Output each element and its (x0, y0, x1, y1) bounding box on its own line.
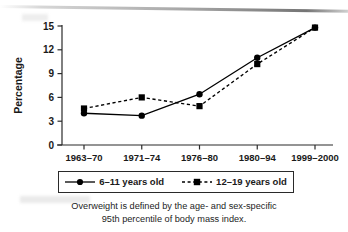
caption-line-1: Overweight is defined by the age- and se… (0, 200, 348, 213)
data-point-1-3 (254, 61, 260, 67)
x-axis-tick-label-2: 1976–80 (181, 152, 218, 163)
y-axis-tick-label-6: 6 (48, 92, 54, 103)
line-chart-plot: 036912151963–701971–741976–801980–941999… (0, 0, 348, 232)
data-point-1-2 (196, 103, 202, 109)
chart-legend: 6–11 years old 12–19 years old (58, 171, 294, 193)
x-axis-tick-label-0: 1963–70 (66, 152, 103, 163)
x-axis-tick-label-3: 1980–94 (239, 152, 277, 163)
figure-container: 036912151963–701971–741976–801980–941999… (0, 0, 348, 232)
data-point-1-1 (139, 94, 145, 100)
y-axis-tick-label-15: 15 (43, 21, 55, 32)
y-axis-tick-label-0: 0 (48, 140, 54, 151)
data-point-0-1 (139, 112, 145, 118)
y-axis-tick-label-12: 12 (43, 44, 55, 55)
legend-entry-12-19: 12–19 years old (182, 176, 287, 188)
legend-label-12-19: 12–19 years old (216, 177, 287, 187)
data-point-1-0 (81, 105, 87, 111)
legend-swatch-dashed-square (182, 176, 212, 188)
y-axis-title: Percentage (12, 57, 24, 114)
legend-swatch-solid-circle (65, 176, 95, 188)
legend-entry-6-11: 6–11 years old (65, 176, 164, 188)
caption-line-2: 95th percentile of body mass index. (0, 213, 348, 226)
figure-caption: Overweight is defined by the age- and se… (0, 200, 348, 226)
x-axis-tick-label-4: 1999–2000 (291, 152, 339, 163)
y-axis-tick-label-3: 3 (48, 116, 54, 127)
data-point-0-3 (254, 55, 260, 61)
data-point-1-4 (312, 24, 318, 30)
data-point-0-2 (196, 91, 202, 97)
legend-label-6-11: 6–11 years old (99, 177, 164, 187)
y-axis-tick-label-9: 9 (48, 68, 54, 79)
x-axis-tick-label-1: 1971–74 (123, 152, 161, 163)
